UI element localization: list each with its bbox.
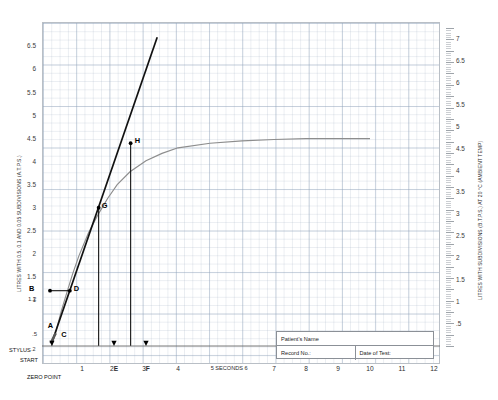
tick-label-two-tenths: .2 bbox=[31, 346, 36, 352]
stylus-label: STYLUS bbox=[9, 347, 31, 353]
value-label-b: 1.2 bbox=[28, 296, 36, 302]
axis-arrow-f bbox=[143, 341, 148, 346]
record-date-row[interactable]: Record No.: Date of Test: bbox=[277, 346, 433, 360]
tick-label-half: .5 bbox=[32, 331, 37, 337]
point-g-label: G bbox=[102, 201, 108, 210]
spirogram-curve bbox=[52, 139, 370, 346]
point-d-label: D bbox=[74, 284, 79, 293]
spirogram-chart: 6.565.554.543.532.521.51 LITRES WITH 0.5… bbox=[0, 0, 498, 400]
point-c-label: C bbox=[61, 330, 66, 339]
marker-dot-d bbox=[68, 289, 72, 293]
axis-arrow-start bbox=[49, 341, 54, 346]
marker-dot-b bbox=[48, 289, 52, 293]
patient-info-box[interactable]: Patient's Name Record No.: Date of Test: bbox=[276, 331, 434, 359]
start-label: START bbox=[20, 357, 38, 363]
tangent-line bbox=[53, 37, 158, 340]
point-a-label: A bbox=[48, 321, 53, 330]
point-h-label: H bbox=[135, 136, 140, 145]
record-no-label: Record No.: bbox=[277, 346, 355, 360]
patient-name-row[interactable]: Patient's Name bbox=[277, 332, 433, 346]
marker-dot-h bbox=[129, 141, 133, 145]
point-markers bbox=[48, 141, 132, 292]
patient-name-label: Patient's Name bbox=[277, 332, 433, 345]
point-b-label: B bbox=[29, 284, 34, 293]
date-of-test-label: Date of Test: bbox=[355, 346, 434, 360]
marker-dot-g bbox=[97, 206, 101, 210]
axis-arrow-e bbox=[111, 341, 116, 346]
zero-point-label: ZERO POINT bbox=[27, 374, 61, 380]
